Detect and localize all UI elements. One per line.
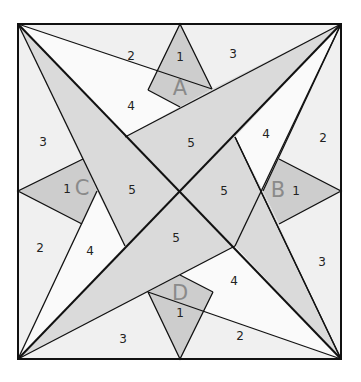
label-1: 1 [63,182,71,196]
label-2: 2 [36,241,44,255]
label-3: 3 [119,332,127,346]
label-1: 1 [176,306,184,320]
label-3: 3 [39,135,47,149]
label-2: 2 [319,131,327,145]
letter-d: D [172,281,188,305]
label-1: 1 [292,184,300,198]
label-4: 4 [127,99,135,113]
label-5: 5 [220,184,228,198]
label-4: 4 [262,127,270,141]
label-5: 5 [128,183,136,197]
label-3: 3 [229,47,237,61]
label-4: 4 [86,244,94,258]
letter-c: C [75,176,90,200]
label-5: 5 [172,231,180,245]
label-3: 3 [318,255,326,269]
label-2: 2 [236,329,244,343]
label-5: 5 [187,136,195,150]
label-2: 2 [127,49,135,63]
letter-a: A [173,76,188,100]
label-4: 4 [230,274,238,288]
quilt-block-diagram: 2 1 3 4 A 5 4 2 B 1 5 3 3 1 C 5 2 4 5 4 … [0,0,361,382]
letter-b: B [271,178,285,202]
label-1: 1 [176,50,184,64]
